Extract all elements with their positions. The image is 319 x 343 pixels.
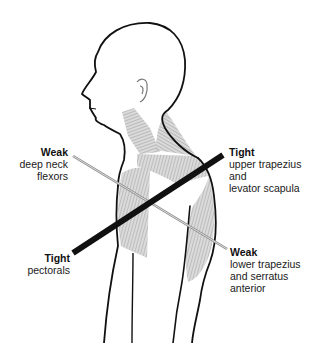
label-title: Tight <box>0 252 70 264</box>
label-weak-neck-flexors: Weak deep neck flexors <box>0 146 68 182</box>
label-line: deep neck <box>0 158 68 170</box>
lower-back-muscle <box>186 176 214 282</box>
label-tight-upper-trapezius: Tight upper trapezius and levator scapul… <box>229 146 301 194</box>
label-title: Weak <box>230 246 301 258</box>
ear <box>137 79 147 102</box>
label-line: and <box>229 170 301 182</box>
label-line: upper trapezius <box>229 158 301 170</box>
label-weak-lower-trapezius: Weak lower trapezius and serratus anteri… <box>230 246 301 294</box>
label-line: pectorals <box>0 264 70 276</box>
label-line: and serratus <box>230 270 301 282</box>
label-title: Weak <box>0 146 68 158</box>
neck-muscles <box>122 108 196 156</box>
label-title: Tight <box>229 146 301 158</box>
label-line: lower trapezius <box>230 258 301 270</box>
torso-mid-line <box>132 253 133 343</box>
label-line: levator scapula <box>229 182 301 194</box>
label-line: flexors <box>0 170 68 182</box>
label-line: anterior <box>230 282 301 294</box>
torso-front-outline <box>104 186 118 343</box>
label-tight-pectorals: Tight pectorals <box>0 252 70 276</box>
